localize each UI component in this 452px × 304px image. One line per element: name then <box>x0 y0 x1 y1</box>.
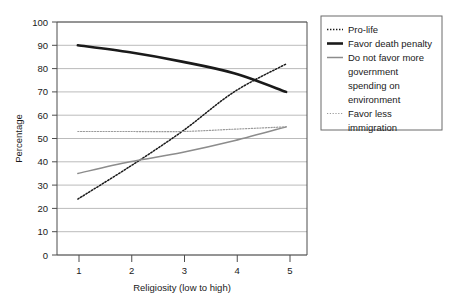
legend-label: Pro-life <box>348 24 378 35</box>
y-tick-label: 30 <box>37 180 48 191</box>
y-tick-label: 0 <box>43 250 48 261</box>
y-tick-label: 40 <box>37 156 48 167</box>
legend-label: Do not favor more <box>348 52 424 63</box>
y-tick-label: 100 <box>32 17 48 28</box>
y-tick-label: 70 <box>37 86 48 97</box>
x-tick-label: 2 <box>129 265 134 276</box>
chart-figure: 100 90 80 70 60 50 40 30 20 10 0 1 2 3 4… <box>0 0 452 304</box>
x-tick-label: 5 <box>287 265 292 276</box>
x-axis-title: Religiosity (low to high) <box>133 282 231 293</box>
y-axis-title: Percentage <box>13 114 24 163</box>
legend-label-cont: environment <box>348 94 401 105</box>
y-tick-label: 10 <box>37 226 48 237</box>
legend-label-cont: spending on <box>348 80 400 91</box>
legend: Pro-life Favor death penalty Do not favo… <box>321 16 442 133</box>
x-tick-label: 1 <box>76 265 81 276</box>
legend-label: Favor less <box>348 108 392 119</box>
legend-label-cont: immigration <box>348 122 397 133</box>
x-tick-label: 3 <box>182 265 187 276</box>
x-tick-label: 4 <box>235 265 240 276</box>
y-tick-label: 20 <box>37 203 48 214</box>
legend-label: Favor death penalty <box>348 38 432 49</box>
legend-label-cont: government <box>348 66 399 77</box>
y-tick-label: 60 <box>37 110 48 121</box>
y-tick-label: 80 <box>37 63 48 74</box>
y-tick-label: 90 <box>37 40 48 51</box>
y-tick-label: 50 <box>37 133 48 144</box>
line-chart: 100 90 80 70 60 50 40 30 20 10 0 1 2 3 4… <box>0 0 452 304</box>
